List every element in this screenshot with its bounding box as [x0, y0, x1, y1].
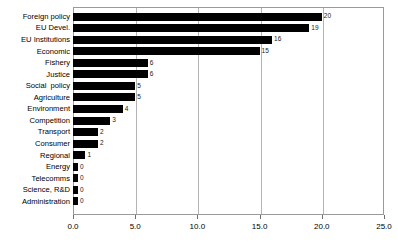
category-label: Competition: [0, 115, 70, 127]
bar-value-label: 0: [80, 196, 84, 206]
bar[interactable]: [73, 140, 98, 148]
bar[interactable]: [73, 47, 260, 55]
bar-value-label: 16: [274, 34, 281, 44]
x-tick-mark: [260, 215, 261, 219]
bar[interactable]: [73, 82, 135, 90]
bar-row[interactable]: 0: [73, 184, 384, 196]
bar-row[interactable]: 2: [73, 138, 384, 150]
bar[interactable]: [73, 117, 110, 125]
category-label: EU Devel.: [0, 22, 70, 34]
bar-row[interactable]: 5: [73, 92, 384, 104]
bar-value-label: 5: [137, 92, 141, 102]
category-label: Consumer: [0, 138, 70, 150]
category-label: Administration: [0, 196, 70, 208]
bar-row[interactable]: 2: [73, 126, 384, 138]
bar[interactable]: [73, 174, 78, 182]
x-tick-label: 20.0: [302, 221, 342, 233]
category-axis-labels: Foreign policyEU Devel.EU InstitutionsEc…: [0, 7, 70, 215]
category-label: Justice: [0, 69, 70, 81]
bar[interactable]: [73, 186, 78, 194]
bar-value-label: 6: [150, 58, 154, 68]
bar-value-label: 0: [80, 173, 84, 183]
bar-row[interactable]: 0: [73, 161, 384, 173]
bar-value-label: 3: [112, 115, 116, 125]
bar-row[interactable]: 5: [73, 80, 384, 92]
bar-value-label: 4: [125, 104, 129, 114]
category-label: Energy: [0, 161, 70, 173]
x-tick-mark: [73, 215, 74, 219]
bar[interactable]: [73, 13, 322, 21]
bar-value-label: 5: [137, 81, 141, 91]
bar-value-label: 1: [87, 150, 91, 160]
bar-row[interactable]: 3: [73, 115, 384, 127]
category-label: Agriculture: [0, 92, 70, 104]
bar[interactable]: [73, 24, 309, 32]
x-tick-label: 25.0: [364, 221, 398, 233]
bar-row[interactable]: 0: [73, 173, 384, 185]
bar-row[interactable]: 6: [73, 69, 384, 81]
x-tick-label: 15.0: [240, 221, 280, 233]
x-tick-mark: [384, 215, 385, 219]
bar[interactable]: [73, 59, 148, 67]
bar[interactable]: [73, 36, 272, 44]
bar-row[interactable]: 4: [73, 103, 384, 115]
bar[interactable]: [73, 105, 123, 113]
category-label: Telecomms: [0, 173, 70, 185]
category-label: Regional: [0, 150, 70, 162]
bar[interactable]: [73, 128, 98, 136]
bar-row[interactable]: 1: [73, 150, 384, 162]
x-tick-mark: [322, 215, 323, 219]
x-tick-mark: [197, 215, 198, 219]
bar-row[interactable]: 16: [73, 34, 384, 46]
x-tick-mark: [135, 215, 136, 219]
bars-layer: 201916156655432210000: [73, 7, 384, 215]
bar-value-label: 6: [150, 69, 154, 79]
bar-value-label: 0: [80, 162, 84, 172]
bar-row[interactable]: 0: [73, 196, 384, 208]
bar-value-label: 15: [262, 46, 269, 56]
bar-row[interactable]: 6: [73, 57, 384, 69]
x-tick-label: 5.0: [115, 221, 155, 233]
bar[interactable]: [73, 93, 135, 101]
category-label: Economic: [0, 46, 70, 58]
x-tick-label: 10.0: [177, 221, 217, 233]
bar[interactable]: [73, 163, 78, 171]
category-label: Science, R&D: [0, 184, 70, 196]
category-label: Environment: [0, 103, 70, 115]
bar-value-label: 2: [100, 138, 104, 148]
category-label: Transport: [0, 126, 70, 138]
bar-value-label: 19: [311, 23, 318, 33]
category-label: EU Institutions: [0, 34, 70, 46]
bar-row[interactable]: 19: [73, 22, 384, 34]
category-label: Social policy: [0, 80, 70, 92]
bar-value-label: 20: [324, 11, 331, 21]
x-axis-tick-labels: 0.05.010.015.020.025.0: [0, 221, 398, 235]
bar[interactable]: [73, 197, 78, 205]
bar-row[interactable]: 15: [73, 46, 384, 58]
bar-row[interactable]: 20: [73, 11, 384, 23]
x-tick-label: 0.0: [53, 221, 93, 233]
bar-value-label: 2: [100, 127, 104, 137]
category-label: Fishery: [0, 57, 70, 69]
category-label: Foreign policy: [0, 11, 70, 23]
bar[interactable]: [73, 70, 148, 78]
bar-value-label: 0: [80, 185, 84, 195]
bar-chart: Foreign policyEU Devel.EU InstitutionsEc…: [0, 0, 398, 246]
bar[interactable]: [73, 151, 85, 159]
